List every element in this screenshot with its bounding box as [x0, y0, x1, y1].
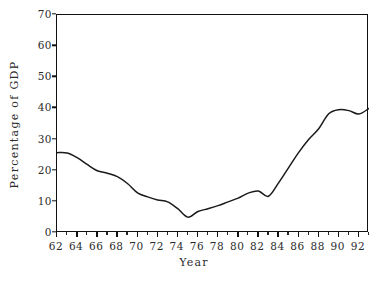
- x-tick-mark: [257, 232, 258, 237]
- x-minor-tick-mark: [247, 232, 248, 235]
- x-tick-mark: [237, 232, 238, 237]
- x-minor-tick-mark: [348, 232, 349, 235]
- x-minor-tick-mark: [287, 232, 288, 235]
- x-tick-label: 74: [170, 240, 184, 252]
- x-tick-mark: [157, 232, 158, 237]
- plot-area: [56, 14, 368, 232]
- x-tick-mark: [76, 232, 77, 237]
- x-minor-tick-mark: [126, 232, 127, 235]
- x-tick-mark: [277, 232, 278, 237]
- x-minor-tick-mark: [368, 232, 369, 235]
- x-tick-label: 64: [69, 240, 83, 252]
- x-tick-mark: [298, 232, 299, 237]
- x-minor-tick-mark: [328, 232, 329, 235]
- x-tick-label: 70: [129, 240, 143, 252]
- x-tick-label: 72: [149, 240, 163, 252]
- x-minor-tick-mark: [207, 232, 208, 235]
- x-tick-mark: [338, 232, 339, 237]
- x-tick-label: 92: [351, 240, 365, 252]
- x-tick-mark: [96, 232, 97, 237]
- x-minor-tick-mark: [66, 232, 67, 235]
- x-minor-tick-mark: [187, 232, 188, 235]
- x-tick-mark: [177, 232, 178, 237]
- x-minor-tick-mark: [147, 232, 148, 235]
- x-tick-mark: [358, 232, 359, 237]
- data-line-chart: [57, 15, 369, 233]
- x-axis-title: Year: [0, 256, 388, 269]
- x-tick-label: 76: [190, 240, 204, 252]
- x-tick-mark: [137, 232, 138, 237]
- x-tick-label: 62: [49, 240, 63, 252]
- x-tick-label: 66: [89, 240, 103, 252]
- x-tick-mark: [318, 232, 319, 237]
- x-tick-label: 78: [210, 240, 224, 252]
- x-tick-mark: [197, 232, 198, 237]
- x-minor-tick-mark: [167, 232, 168, 235]
- x-tick-label: 80: [230, 240, 244, 252]
- x-tick-label: 90: [331, 240, 345, 252]
- x-tick-label: 84: [270, 240, 284, 252]
- x-minor-tick-mark: [86, 232, 87, 235]
- data-series-line: [57, 108, 369, 217]
- x-minor-tick-mark: [106, 232, 107, 235]
- x-minor-tick-mark: [227, 232, 228, 235]
- x-tick-label: 88: [310, 240, 324, 252]
- x-tick-label: 86: [290, 240, 304, 252]
- x-tick-mark: [116, 232, 117, 237]
- chart-figure: 010203040506070 626466687072747678808284…: [0, 0, 388, 284]
- x-tick-label: 68: [109, 240, 123, 252]
- y-tick-label: 70: [0, 8, 52, 20]
- y-axis-title: Percentage of GDP: [8, 25, 21, 225]
- x-minor-tick-mark: [267, 232, 268, 235]
- x-tick-mark: [56, 232, 57, 237]
- x-minor-tick-mark: [308, 232, 309, 235]
- x-tick-label: 82: [250, 240, 264, 252]
- x-tick-mark: [217, 232, 218, 237]
